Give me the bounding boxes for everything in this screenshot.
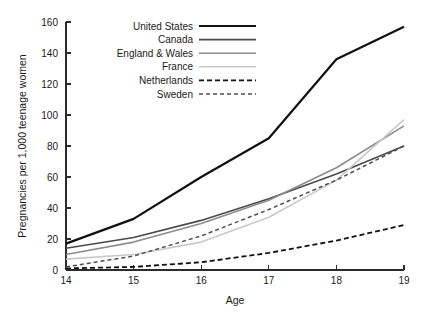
x-tick-label: 18 bbox=[331, 275, 343, 286]
y-tick-label: 60 bbox=[47, 172, 59, 183]
legend-label-canada: Canada bbox=[158, 34, 193, 45]
x-tick-label: 15 bbox=[128, 275, 140, 286]
y-tick-label: 160 bbox=[41, 17, 58, 28]
legend-label-england-wales: England & Wales bbox=[117, 48, 193, 59]
series-line-france bbox=[66, 120, 404, 260]
y-tick-label: 120 bbox=[41, 79, 58, 90]
series-line-netherlands bbox=[66, 225, 404, 268]
x-axis: 141516171819 bbox=[60, 265, 410, 286]
x-axis-title: Age bbox=[226, 294, 245, 306]
chart-canvas: 020406080100120140160 141516171819 Pregn… bbox=[0, 0, 422, 319]
y-tick-label: 40 bbox=[47, 203, 59, 214]
series-line-england-wales bbox=[66, 126, 404, 255]
y-axis: 020406080100120140160 bbox=[41, 17, 71, 276]
y-axis-title: Pregnancies per 1,000 teenage women bbox=[16, 54, 28, 237]
legend-label-sweden: Sweden bbox=[157, 89, 193, 100]
data-series-group bbox=[66, 27, 404, 269]
legend-label-france: France bbox=[162, 61, 194, 72]
x-tick-label: 17 bbox=[263, 275, 275, 286]
x-tick-label: 16 bbox=[196, 275, 208, 286]
y-tick-label: 80 bbox=[47, 141, 59, 152]
chart-legend: United StatesCanadaEngland & WalesFrance… bbox=[117, 21, 256, 100]
y-tick-label: 100 bbox=[41, 110, 58, 121]
y-tick-label: 20 bbox=[47, 234, 59, 245]
y-tick-label: 0 bbox=[52, 265, 58, 276]
series-line-canada bbox=[66, 146, 404, 248]
y-tick-label: 140 bbox=[41, 48, 58, 59]
legend-label-united-states: United States bbox=[133, 21, 193, 32]
x-tick-label: 19 bbox=[398, 275, 410, 286]
x-tick-label: 14 bbox=[60, 275, 72, 286]
teen-pregnancy-line-chart: 020406080100120140160 141516171819 Pregn… bbox=[0, 0, 422, 319]
legend-label-netherlands: Netherlands bbox=[139, 75, 193, 86]
